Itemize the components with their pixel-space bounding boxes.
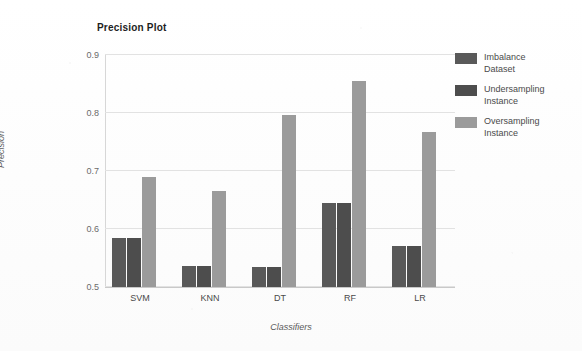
- bar: [127, 238, 141, 287]
- legend-item: UndersamplingInstance: [455, 84, 577, 107]
- x-tick-label: SVM: [105, 293, 175, 303]
- x-tick-label: KNN: [175, 293, 245, 303]
- bar: [322, 203, 336, 287]
- bar: [182, 266, 196, 287]
- y-tick-label: 0.5: [65, 282, 99, 292]
- y-tick-label: 0.6: [65, 224, 99, 234]
- chart-title: Precision Plot: [97, 22, 167, 33]
- bar: [197, 266, 211, 287]
- bar-group-svm: [112, 55, 156, 287]
- bar: [142, 177, 156, 287]
- y-tick-label: 0.9: [65, 50, 99, 60]
- legend-label: OversamplingInstance: [484, 116, 540, 139]
- x-tick-label: RF: [315, 293, 385, 303]
- legend-label: UndersamplingInstance: [484, 84, 545, 107]
- bar: [267, 267, 281, 287]
- plot-area: [105, 55, 455, 287]
- bar: [212, 191, 226, 287]
- bar: [252, 267, 266, 287]
- bar: [422, 132, 436, 287]
- legend-swatch-icon: [455, 53, 477, 64]
- chart-legend: ImbalanceDatasetUndersamplingInstanceOve…: [455, 52, 577, 148]
- bar-group-knn: [182, 55, 226, 287]
- bar: [352, 81, 366, 287]
- legend-swatch-icon: [455, 85, 477, 96]
- bar-group-lr: [392, 55, 436, 287]
- x-tick-label: LR: [385, 293, 455, 303]
- x-tick-label: DT: [245, 293, 315, 303]
- bar: [337, 203, 351, 287]
- y-tick-label: 0.8: [65, 108, 99, 118]
- legend-item: ImbalanceDataset: [455, 52, 577, 75]
- y-axis-title: Precision: [0, 131, 6, 168]
- legend-label: ImbalanceDataset: [484, 52, 526, 75]
- bar: [282, 115, 296, 287]
- legend-item: OversamplingInstance: [455, 116, 577, 139]
- bar-group-dt: [252, 55, 296, 287]
- bar: [112, 238, 126, 287]
- bar: [407, 246, 421, 287]
- x-axis-title: Classifiers: [0, 322, 582, 332]
- y-axis-tick-labels: 0.50.60.70.80.9: [63, 55, 99, 287]
- x-axis-line: [105, 287, 455, 288]
- bar: [392, 246, 406, 287]
- y-tick-label: 0.7: [65, 166, 99, 176]
- bar-group-rf: [322, 55, 366, 287]
- legend-swatch-icon: [455, 117, 477, 128]
